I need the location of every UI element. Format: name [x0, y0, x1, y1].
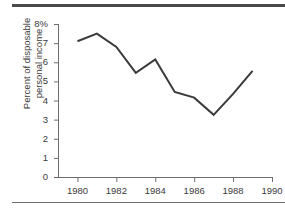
chart-figure: Percent of disposable personal income 01… [0, 0, 285, 212]
axes-group [54, 24, 273, 182]
plot-area [0, 0, 285, 212]
data-series-line [77, 34, 252, 115]
